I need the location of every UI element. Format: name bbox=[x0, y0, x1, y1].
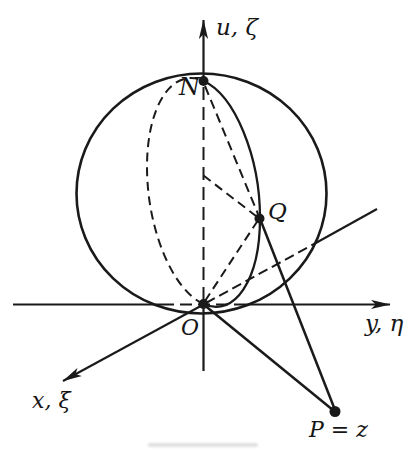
label-x-axis: x, ξ bbox=[32, 388, 72, 413]
riemann-sphere bbox=[77, 74, 327, 314]
point-P-dot bbox=[330, 406, 341, 417]
projection-construction-lines bbox=[204, 86, 336, 411]
sphere-outline bbox=[77, 74, 327, 314]
point-N-dot bbox=[199, 76, 209, 86]
label-north-pole: N bbox=[178, 73, 201, 101]
segment-O-Q-dashed bbox=[205, 221, 258, 301]
point-Q-dot bbox=[255, 214, 265, 224]
stereographic-projection-figure: u, ζ N Q O y, η x, ξ P = z bbox=[0, 0, 413, 451]
labels: u, ζ N Q O y, η x, ξ P = z bbox=[32, 14, 404, 442]
label-sphere-point: Q bbox=[268, 198, 287, 224]
label-y-axis: y, η bbox=[364, 310, 404, 336]
diagram-svg: u, ζ N Q O y, η x, ξ P = z bbox=[0, 0, 413, 451]
meridian-back-arc-dashed bbox=[147, 78, 204, 304]
segment-center-Q-dashed bbox=[204, 176, 257, 217]
label-plane-point: P = z bbox=[308, 417, 368, 442]
point-O-dot bbox=[199, 299, 209, 309]
marked-points bbox=[199, 76, 341, 417]
label-u-axis: u, ζ bbox=[216, 14, 259, 40]
meridian-front-arc bbox=[204, 81, 261, 307]
caption-remnant bbox=[148, 443, 258, 447]
label-origin: O bbox=[181, 315, 199, 340]
